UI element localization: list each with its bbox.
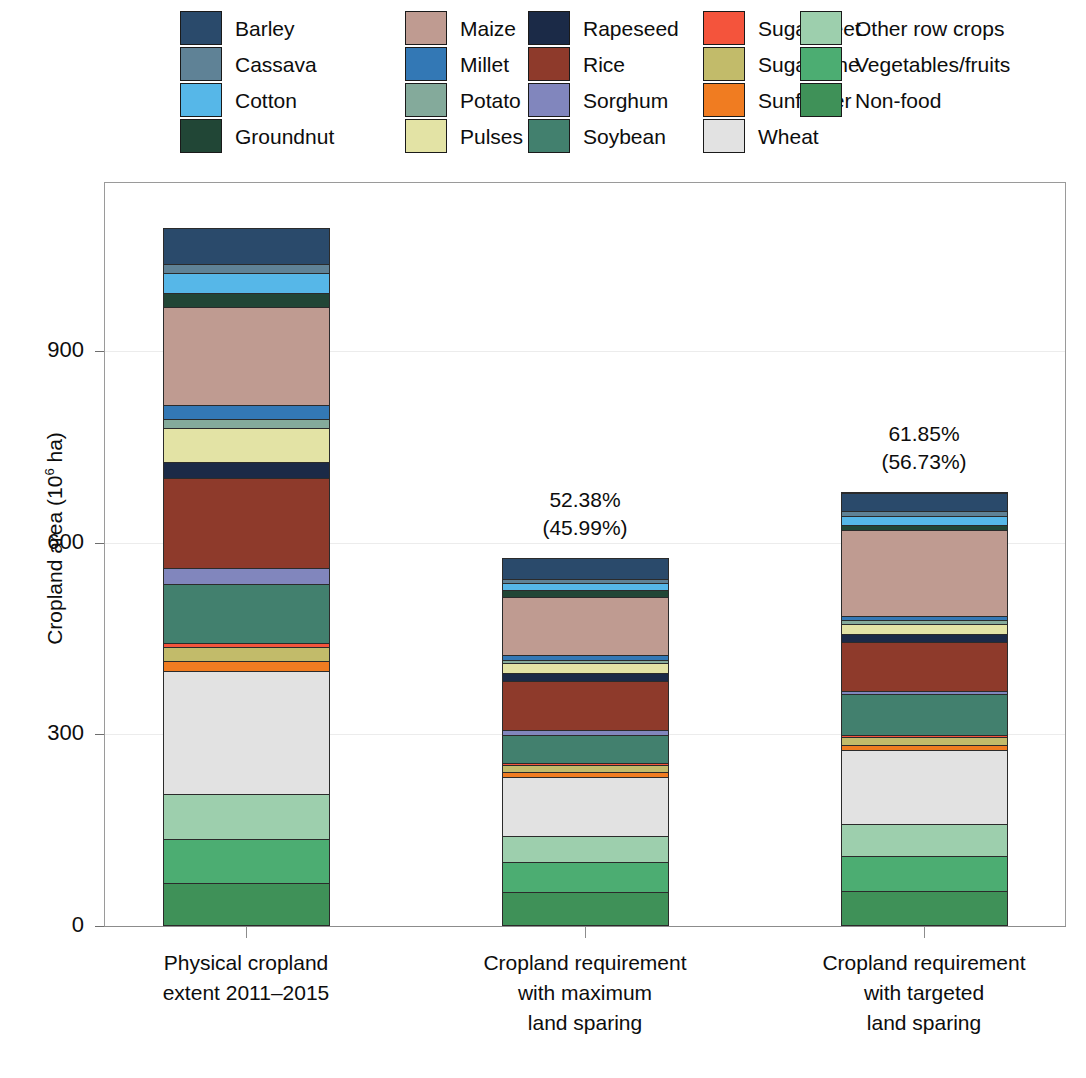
legend-swatch-icon <box>180 11 222 45</box>
legend-item-millet[interactable]: Millet <box>405 46 523 82</box>
legend-item-label: Rice <box>583 54 625 75</box>
stacked-bar-0[interactable] <box>163 228 330 926</box>
legend-item-label: Rapeseed <box>583 18 679 39</box>
legend-item-sorghum[interactable]: Sorghum <box>528 82 679 118</box>
bar-segment-rapeseed[interactable] <box>163 462 330 478</box>
legend-item-label: Maize <box>460 18 516 39</box>
legend-item-potato[interactable]: Potato <box>405 82 523 118</box>
bar-segment-sugarcane[interactable] <box>502 765 669 772</box>
legend-item-barley[interactable]: Barley <box>180 10 334 46</box>
bar-segment-sorghum[interactable] <box>163 568 330 584</box>
legend-item-label: Potato <box>460 90 521 111</box>
bar-segment-wheat[interactable] <box>841 750 1008 824</box>
bar-segment-other-row-crops[interactable] <box>163 794 330 839</box>
x-tick-label-line: with maximum <box>435 978 735 1008</box>
legend-swatch-icon <box>703 47 745 81</box>
stacked-bar-1[interactable] <box>502 558 669 926</box>
bar-segment-barley[interactable] <box>502 558 669 578</box>
bar-segment-pulses[interactable] <box>163 428 330 462</box>
bar-segment-sugarcane[interactable] <box>163 647 330 661</box>
bar-annotation-2: 61.85%(56.73%) <box>774 420 1074 476</box>
y-tick-mark <box>95 351 104 352</box>
x-tick-label-0: Physical croplandextent 2011–2015 <box>96 948 396 1008</box>
legend-item-label: Groundnut <box>235 126 334 147</box>
bar-annotation-secondary: (56.73%) <box>774 448 1074 476</box>
bar-segment-sugarcane[interactable] <box>841 737 1008 745</box>
bar-segment-other-row-crops[interactable] <box>841 824 1008 855</box>
legend-swatch-icon <box>405 47 447 81</box>
legend-item-rapeseed[interactable]: Rapeseed <box>528 10 679 46</box>
x-tick-label-line: Physical cropland <box>96 948 396 978</box>
bar-segment-vegetables-fruits[interactable] <box>163 839 330 882</box>
legend-column-0: BarleyCassavaCottonGroundnut <box>180 10 334 154</box>
bar-segment-potato[interactable] <box>163 419 330 428</box>
legend-swatch-icon <box>528 11 570 45</box>
bar-segment-barley[interactable] <box>841 493 1008 511</box>
legend-item-other-row-crops[interactable]: Other row crops <box>800 10 1010 46</box>
legend-item-label: Non-food <box>855 90 941 111</box>
y-tick-label: 0 <box>72 914 84 936</box>
bar-segment-rice[interactable] <box>841 642 1008 691</box>
bar-segment-vegetables-fruits[interactable] <box>502 862 669 893</box>
bar-annotation-primary: 52.38% <box>435 486 735 514</box>
bar-segment-millet[interactable] <box>163 405 330 419</box>
bar-segment-rapeseed[interactable] <box>841 634 1008 642</box>
legend-item-wheat[interactable]: Wheat <box>703 118 861 154</box>
x-tick-label-line: Cropland requirement <box>435 948 735 978</box>
legend-item-label: Sorghum <box>583 90 668 111</box>
bar-segment-sunflower[interactable] <box>163 661 330 671</box>
bar-segment-soybean[interactable] <box>502 735 669 763</box>
bar-segment-pulses[interactable] <box>841 624 1008 634</box>
bar-annotation-secondary: (45.99%) <box>435 514 735 542</box>
bar-segment-pulses[interactable] <box>502 663 669 673</box>
bar-segment-barley[interactable] <box>163 228 330 264</box>
x-tick-label-line: land sparing <box>435 1008 735 1038</box>
bar-segment-rice[interactable] <box>502 681 669 731</box>
x-tick-label-line: land sparing <box>774 1008 1074 1038</box>
bar-segment-cotton[interactable] <box>163 273 330 292</box>
legend-item-soybean[interactable]: Soybean <box>528 118 679 154</box>
bar-segment-vegetables-fruits[interactable] <box>841 856 1008 892</box>
bar-segment-groundnut[interactable] <box>163 293 330 307</box>
bar-segment-rapeseed[interactable] <box>502 673 669 681</box>
legend-item-pulses[interactable]: Pulses <box>405 118 523 154</box>
plot-area: Cropland area (106 ha) 0300600900 Physic… <box>0 176 1086 1078</box>
legend-item-vegetables-fruits[interactable]: Vegetables/fruits <box>800 46 1010 82</box>
bar-segment-non-food[interactable] <box>502 892 669 926</box>
y-axis-title-prefix: Cropland area (10 <box>43 476 66 645</box>
legend-column-4: Other row cropsVegetables/fruitsNon-food <box>800 10 1010 118</box>
legend-item-cotton[interactable]: Cotton <box>180 82 334 118</box>
legend-item-cassava[interactable]: Cassava <box>180 46 334 82</box>
legend-item-rice[interactable]: Rice <box>528 46 679 82</box>
legend-item-label: Soybean <box>583 126 666 147</box>
bar-segment-non-food[interactable] <box>841 891 1008 926</box>
bar-segment-cotton[interactable] <box>841 516 1008 525</box>
bar-segment-maize[interactable] <box>841 530 1008 616</box>
legend-swatch-icon <box>180 119 222 153</box>
legend-item-label: Barley <box>235 18 295 39</box>
legend-item-label: Wheat <box>758 126 819 147</box>
stacked-bar-2[interactable] <box>841 492 1008 926</box>
bar-segment-soybean[interactable] <box>163 584 330 643</box>
bar-segment-maize[interactable] <box>502 597 669 656</box>
x-tick-label-2: Cropland requirementwith targetedland sp… <box>774 948 1074 1038</box>
legend-item-label: Other row crops <box>855 18 1004 39</box>
legend-item-groundnut[interactable]: Groundnut <box>180 118 334 154</box>
bar-segment-cotton[interactable] <box>502 583 669 590</box>
legend-item-maize[interactable]: Maize <box>405 10 523 46</box>
bar-segment-rice[interactable] <box>163 478 330 568</box>
legend-swatch-icon <box>800 47 842 81</box>
legend-swatch-icon <box>703 11 745 45</box>
y-axis-title-exponent: 6 <box>42 468 57 475</box>
legend-item-label: Vegetables/fruits <box>855 54 1010 75</box>
bar-segment-other-row-crops[interactable] <box>502 836 669 862</box>
y-tick-label: 600 <box>47 531 84 553</box>
legend-column-1: MaizeMilletPotatoPulses <box>405 10 523 154</box>
bar-segment-wheat[interactable] <box>502 777 669 836</box>
bar-segment-soybean[interactable] <box>841 694 1008 734</box>
bar-segment-cassava[interactable] <box>163 264 330 274</box>
bar-segment-non-food[interactable] <box>163 883 330 926</box>
legend-item-non-food[interactable]: Non-food <box>800 82 1010 118</box>
bar-segment-wheat[interactable] <box>163 671 330 795</box>
bar-segment-maize[interactable] <box>163 307 330 405</box>
